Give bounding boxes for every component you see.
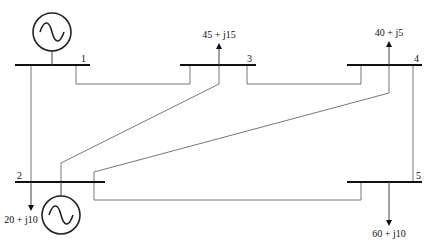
bus-label-5: 5: [416, 170, 421, 181]
bus-label-2: 2: [17, 170, 22, 181]
line-4-2: [94, 65, 389, 182]
generator-bus-1: [33, 13, 71, 65]
load-label-bus-5: 60 + j10: [372, 228, 405, 239]
generator-bus-2: [42, 182, 80, 234]
load-label-bus-4: 40 + j5: [375, 27, 403, 38]
power-system-diagram: 1 3 4 2 5 45 + j15 40 + j5 20 + j10 60 +…: [0, 0, 431, 247]
load-label-bus-2: 20 + j10: [4, 214, 37, 225]
load-bus-2: 20 + j10: [4, 182, 37, 225]
load-label-bus-3: 45 + j15: [202, 29, 235, 40]
line-1-3: [76, 65, 190, 84]
load-bus-5: 60 + j10: [372, 182, 405, 239]
transmission-lines: [31, 65, 413, 200]
bus-label-3: 3: [247, 53, 252, 64]
line-2-5: [94, 182, 361, 200]
line-3-2: [61, 65, 219, 182]
bus-label-4: 4: [414, 53, 419, 64]
load-bus-4: 40 + j5: [375, 27, 403, 65]
bus-label-1: 1: [81, 53, 86, 64]
load-bus-3: 45 + j15: [202, 29, 235, 65]
line-3-4: [247, 65, 361, 84]
